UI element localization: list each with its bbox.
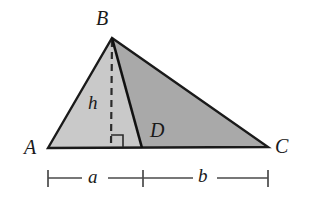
vertex-label-a: A: [24, 137, 36, 157]
dimension-line-group: [48, 170, 268, 187]
triangle-diagram-svg: [0, 0, 313, 200]
segment-label-b: b: [198, 166, 208, 185]
vertex-label-b: B: [96, 8, 108, 28]
altitude-dashed-line: [111, 40, 112, 147]
geometry-figure: B A C D h a b: [0, 0, 313, 200]
altitude-label-h: h: [88, 93, 98, 112]
vertex-label-c: C: [275, 136, 288, 156]
segment-label-a: a: [88, 167, 98, 186]
vertex-label-d: D: [150, 120, 164, 140]
